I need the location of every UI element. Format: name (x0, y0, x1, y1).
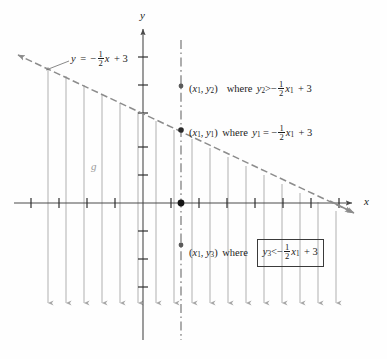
p3-fraction-one-half: 1 2 (284, 243, 290, 262)
p1-where: where (222, 128, 248, 139)
p2-fraction-denominator: 2 (278, 88, 284, 98)
p1-fraction-numerator: 1 (278, 124, 284, 133)
p2-rhs-x-sub: 1 (290, 88, 294, 95)
p3-rel-lhs-sub: 3 (267, 251, 271, 258)
p2-x-sub: 1 (197, 88, 201, 95)
equation-fraction-one-half: 1 2 (98, 50, 104, 69)
p1-rhs-x-sub: 1 (290, 132, 294, 139)
p3-fraction-denominator: 2 (284, 251, 290, 261)
equation-constant: 3 (122, 54, 127, 65)
equation-variable: x (105, 54, 110, 65)
fraction-denominator: 2 (98, 58, 104, 68)
point-label-x1-y2: ( x1 , y2 ) where y2 > − 1 2 x1 + 3 (189, 80, 312, 99)
point-label-x1-y1: ( x1 , y1 ) where y1 = − 1 2 x1 + 3 (189, 124, 312, 143)
y-axis-label: y (140, 10, 145, 21)
p2-where: where (227, 84, 253, 95)
graph-svg (0, 0, 387, 359)
highlighted-inequality-box: y3 < − 1 2 x1 + 3 (257, 239, 324, 267)
p2-plus: + (298, 84, 304, 95)
point-x1-axis (178, 200, 185, 207)
p1-y-sub: 1 (211, 132, 215, 139)
line-equation-label: y = − 1 2 x + 3 (71, 50, 128, 69)
p2-comma: , (201, 84, 204, 95)
p1-rel-op: = (263, 128, 269, 139)
p2-fraction-one-half: 1 2 (278, 80, 284, 99)
y-axis (138, 29, 148, 340)
equation-lhs: y (71, 54, 76, 65)
function-label-g: g (91, 161, 97, 172)
p3-comma: , (201, 248, 204, 259)
p1-constant: 3 (307, 128, 312, 139)
point-x1-y3 (179, 243, 184, 248)
p2-rel-lhs-sub: 2 (261, 88, 265, 95)
equation-equals: = (80, 54, 86, 65)
p3-x-sub: 1 (197, 252, 201, 259)
point-label-x1-y3: ( x1 , y3 ) where y3 < − 1 2 x1 + 3 (189, 239, 324, 267)
p2-paren-close: ) (214, 84, 218, 95)
p2-y-sub: 2 (211, 88, 215, 95)
x-axis-label: x (364, 196, 369, 207)
p2-fraction-numerator: 1 (278, 80, 284, 89)
p1-paren-close: ) (214, 128, 218, 139)
p3-rhs-x-sub: 1 (296, 251, 300, 258)
p1-fraction-denominator: 2 (278, 132, 284, 142)
p3-plus: + (304, 247, 310, 258)
p1-plus: + (298, 128, 304, 139)
p3-paren-close: ) (214, 248, 218, 259)
p3-constant: 3 (312, 247, 317, 258)
p1-comma: , (201, 128, 204, 139)
p3-where: where (222, 248, 248, 259)
point-x1-y1 (178, 127, 184, 133)
p1-minus: − (272, 128, 278, 139)
p3-fraction-numerator: 1 (284, 243, 290, 252)
point-x1-y2 (179, 84, 184, 89)
p1-x-sub: 1 (197, 132, 201, 139)
fraction-numerator: 1 (98, 50, 104, 59)
equation-leader-line (46, 61, 69, 70)
equation-plus: + (114, 54, 120, 65)
p3-minus: − (277, 247, 283, 258)
p1-fraction-one-half: 1 2 (278, 124, 284, 143)
p1-rel-lhs-sub: 1 (257, 132, 261, 139)
p2-constant: 3 (306, 84, 311, 95)
equation-minus: − (91, 54, 97, 65)
figure-canvas: y x g y = − 1 2 x + 3 ( x1 , y2 (0, 0, 387, 359)
p2-minus: − (271, 84, 277, 95)
p3-y-sub: 3 (211, 252, 215, 259)
